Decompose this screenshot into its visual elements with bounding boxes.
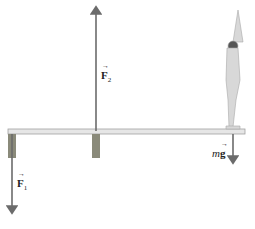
diving-board-diagram: F2 F1 mg xyxy=(0,0,255,229)
mg-label: mg xyxy=(212,148,225,159)
diagram-graphics xyxy=(0,0,255,229)
f1-label: F1 xyxy=(17,178,27,192)
right-support xyxy=(92,134,100,158)
diving-board xyxy=(8,129,245,134)
f2-label: F2 xyxy=(101,70,111,84)
diver-figure-icon xyxy=(226,10,243,129)
